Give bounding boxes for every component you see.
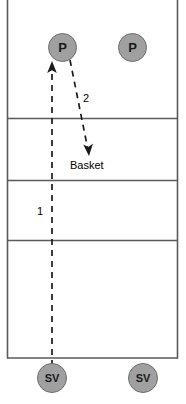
player-marker-left-label: P [58, 41, 67, 54]
movement-step-label-2: 2 [83, 92, 89, 104]
player-marker-left[interactable]: P [48, 33, 77, 62]
basket-label: Basket [70, 159, 104, 171]
player-marker-right-label: P [128, 41, 137, 54]
server-marker-left-label: SV [45, 373, 60, 384]
court-graphics [0, 0, 186, 404]
court-diagram: P P SV SV 1 2 Basket [0, 0, 186, 404]
court-surface [7, 0, 178, 358]
server-marker-right-label: SV [136, 373, 151, 384]
server-marker-left[interactable]: SV [37, 363, 67, 393]
movement-step-label-1: 1 [37, 205, 43, 217]
player-marker-right[interactable]: P [118, 33, 147, 62]
server-marker-right[interactable]: SV [128, 363, 158, 393]
